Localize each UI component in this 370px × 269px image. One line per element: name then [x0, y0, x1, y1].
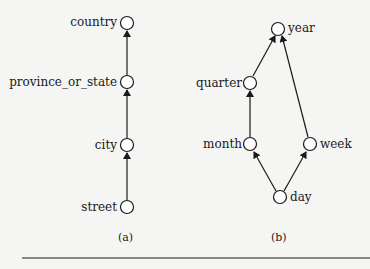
node-quarter — [244, 77, 257, 90]
node-day — [274, 191, 287, 204]
label-day: day — [290, 190, 312, 204]
node-province-or-state — [121, 76, 134, 89]
label-year: year — [288, 21, 315, 35]
node-year — [272, 23, 285, 36]
label-street: street — [81, 200, 117, 214]
hierarchy-graph — [0, 0, 370, 269]
diagram-b-edges — [250, 36, 308, 191]
concept-hierarchy-figure: country province_or_state city street (a… — [0, 0, 370, 269]
node-week — [304, 138, 317, 151]
node-country — [121, 17, 134, 30]
caption-b: (b) — [271, 231, 287, 244]
node-street — [121, 201, 134, 214]
label-quarter: quarter — [196, 76, 242, 90]
label-week: week — [320, 137, 352, 151]
node-city — [121, 139, 134, 152]
label-month: month — [203, 137, 242, 151]
label-city: city — [95, 138, 117, 152]
diagram-b-nodes — [244, 23, 317, 204]
label-province-or-state: province_or_state — [9, 75, 117, 89]
label-country: country — [70, 15, 117, 29]
caption-a: (a) — [118, 231, 133, 244]
node-month — [244, 138, 257, 151]
